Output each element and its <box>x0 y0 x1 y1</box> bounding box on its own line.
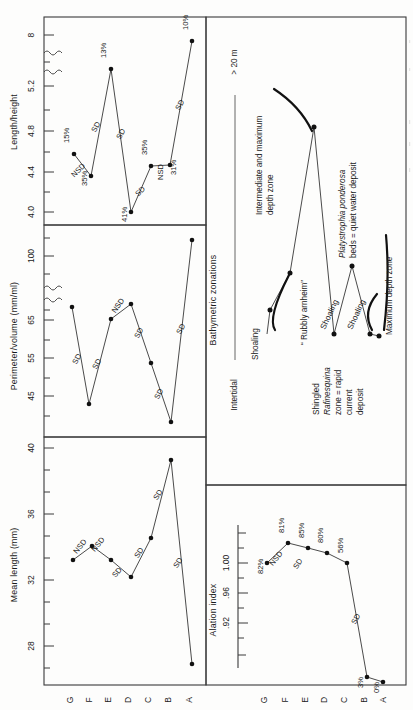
sig-label-mean-length-2: SD <box>110 565 124 579</box>
axis-title-mean-length: Mean length (mm) <box>9 528 19 603</box>
cat-label-6: A <box>184 697 194 703</box>
ytick-perimeter-volume-0: 45 <box>26 391 36 401</box>
sig-label-mean-length-0: NSD <box>71 537 89 555</box>
figure-svg: 8 5.2 4.8 4.4 4.0 Length/height 15% 35% … <box>0 0 413 710</box>
panel-frame-bathymetric <box>206 17 406 485</box>
axis-title-length-height: Length/height <box>9 94 19 150</box>
sig-label-mean-length-5: SD <box>171 555 184 569</box>
sig-label-perimeter-volume-4: SD <box>152 387 165 401</box>
label-maximum-depth-zone: Maximum depth zone <box>385 256 394 335</box>
ytick-length-height-4: 8 <box>26 32 36 37</box>
axis-break-perimeter-volume <box>44 286 62 290</box>
cat-label-r-5: B <box>359 697 369 703</box>
cat-label-0: G <box>65 697 75 704</box>
current-deposit-arrow <box>368 294 377 330</box>
category-axis-left: G F E D C B A <box>65 697 194 704</box>
ytick-alation-0: 1.00 <box>221 554 231 571</box>
point-label-length-height-0: 15% <box>62 128 71 143</box>
length-height-ticks <box>44 35 54 212</box>
label-shingled-line4: current <box>345 389 354 415</box>
panel-mean-length: 40 36 32 28 Mean length (mm) NSD NSD SD … <box>9 443 194 703</box>
panel-frame-length-height <box>44 17 206 225</box>
point-label-alation-0: 82% <box>256 559 265 574</box>
sig-label-length-height-3: SD <box>133 184 147 198</box>
ytick-mean-length-0: 28 <box>26 641 36 651</box>
category-axis-right: G F E D C B A <box>259 697 388 704</box>
point-label-length-height-6: 10% <box>181 15 190 30</box>
intermediate-depth-arrow <box>274 89 312 131</box>
ytick-perimeter-volume-3: 100 <box>26 249 36 263</box>
ytick-length-height-0: 4.0 <box>26 206 36 218</box>
series-points-alation-index <box>265 541 386 685</box>
point-label-length-height-5: 31% <box>169 160 178 175</box>
point-label-length-height-3: 41% <box>120 207 129 222</box>
sig-label-mean-length-3: SD <box>132 545 145 559</box>
sig-label-perimeter-volume-2: NSD <box>110 296 127 315</box>
cat-label-r-2: E <box>300 697 310 703</box>
cat-label-r-3: D <box>319 697 329 703</box>
alation-ticks <box>238 533 248 655</box>
point-label-alation-4: 56% <box>336 538 345 553</box>
label-deep-limit: > 20 m <box>230 49 239 74</box>
ytick-perimeter-volume-1: 55 <box>26 353 36 363</box>
cat-label-r-1: F <box>280 697 290 702</box>
sig-label-length-height-4: NSD <box>156 163 165 180</box>
series-alation-index <box>267 543 383 682</box>
axis-title-alation-index: Alation index <box>208 583 218 636</box>
label-shingled-line2: Rafinesquina <box>323 367 332 415</box>
sig-label-alation-2: SD <box>349 612 362 626</box>
label-intermediate-zone-line2: depth zone <box>266 174 275 215</box>
axis-break-length-height-2 <box>44 70 62 74</box>
ytick-mean-length-1: 32 <box>26 575 36 585</box>
point-label-length-height-2: 13% <box>99 43 108 58</box>
label-shingled-line3: zone = rapid <box>334 369 343 415</box>
cat-label-3: D <box>123 697 133 703</box>
cat-label-r-6: A <box>378 697 388 703</box>
point-label-alation-2: 85% <box>297 523 306 538</box>
label-shingled-line5: deposit <box>356 388 365 415</box>
axis-break-length-height <box>44 51 62 55</box>
label-rubbly-arnheim: “ Rubbly arnheim” <box>300 280 309 345</box>
sig-label-perimeter-volume-1: SD <box>90 357 103 371</box>
panel-perimeter-volume: 100 65 55 45 Perimeter/volume (mm/ml) SD… <box>9 238 194 425</box>
ytick-mean-length-3: 40 <box>26 443 36 453</box>
ytick-alation-1: .96 <box>221 587 231 599</box>
sig-label-length-height-5: SD <box>173 98 186 112</box>
panel-alation-index: 1.00 .96 .92 Alation index 82% 81% 85% 8… <box>208 518 388 704</box>
perimeter-volume-ticks <box>44 238 54 416</box>
axis-title-perimeter-volume: Perimeter/volume (mm/ml) <box>9 282 19 390</box>
axis-break-perimeter-volume-2 <box>44 298 62 302</box>
ytick-length-height-3: 5.2 <box>26 80 36 92</box>
cat-label-2: E <box>103 697 113 703</box>
ytick-mean-length-2: 36 <box>26 509 36 519</box>
point-label-alation-3: 80% <box>316 528 325 543</box>
shoaling-arrow-1 <box>273 275 289 330</box>
panel-frame-alation <box>206 485 406 685</box>
point-label-alation-5: 3% <box>356 677 365 688</box>
ytick-perimeter-volume-2: 65 <box>26 315 36 325</box>
label-shingled-line1: Shingled <box>312 383 321 415</box>
cat-label-5: B <box>163 697 173 703</box>
label-shoaling-1: Shoaling <box>251 328 260 360</box>
label-shoaling-2: Shoaling <box>319 298 341 331</box>
sig-label-mean-length-1: NSD <box>89 535 107 553</box>
sig-label-mean-length-4: SD <box>151 487 164 501</box>
cat-label-1: F <box>84 697 94 702</box>
cat-label-r-4: C <box>339 697 349 703</box>
point-label-alation-6: 0% <box>372 682 381 693</box>
point-label-alation-1: 81% <box>277 518 286 533</box>
cat-label-4: C <box>143 697 153 703</box>
label-intermediate-zone-line1: Intermediate and maximum <box>255 116 264 215</box>
sig-label-length-height-1: SD <box>89 120 102 134</box>
label-platystrophia-line2: beds = quiet water deposit <box>349 161 358 258</box>
sig-label-perimeter-volume-3: SD <box>132 326 145 340</box>
label-platystrophia-line1: Platystrophia ponderosa <box>338 169 347 258</box>
panel-length-height: 8 5.2 4.8 4.4 4.0 Length/height 15% 35% … <box>9 15 194 222</box>
point-label-length-height-4: 35% <box>140 140 149 155</box>
cat-label-r-0: G <box>259 697 269 704</box>
figure-root: 8 5.2 4.8 4.4 4.0 Length/height 15% 35% … <box>0 0 413 710</box>
bathymetric-title: Bathymetric zonations <box>208 254 218 345</box>
sig-label-length-height-2: SD <box>114 127 127 141</box>
label-intertidal: Intertidal <box>230 379 239 411</box>
ytick-alation-2: .92 <box>221 617 231 629</box>
